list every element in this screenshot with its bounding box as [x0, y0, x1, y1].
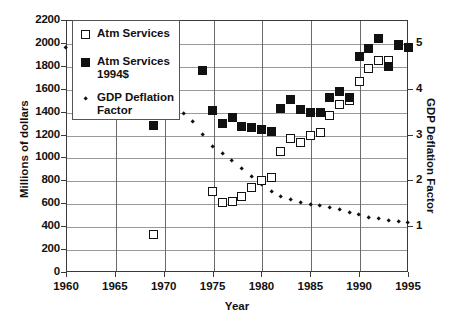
- y-axis-left-tick-mark: [61, 112, 66, 113]
- x-axis-tick-label: 1960: [44, 280, 88, 292]
- y-axis-left-tick-mark: [61, 157, 66, 158]
- y-axis-left-tick-label: 1800: [24, 59, 60, 71]
- gridline-horizontal: [67, 181, 407, 182]
- data-point-series-1: [208, 106, 217, 115]
- legend-swatch-open-square-icon: [79, 27, 93, 41]
- data-point-series-1: [345, 93, 354, 102]
- data-point-series-0: [257, 176, 266, 185]
- data-point-series-0: [228, 197, 237, 206]
- x-axis-tick-mark: [408, 272, 409, 277]
- y-axis-right-tick-mark: [408, 180, 413, 181]
- x-axis-tick-label: 1980: [239, 280, 283, 292]
- x-axis-tick-label: 1995: [386, 280, 430, 292]
- data-point-series-1: [237, 122, 246, 131]
- data-point-series-0: [374, 56, 383, 65]
- x-axis-tick-mark: [115, 272, 116, 277]
- x-axis-tick-label: 1970: [142, 280, 186, 292]
- data-point-series-1: [325, 93, 334, 102]
- y-axis-left-tick-mark: [61, 203, 66, 204]
- y-axis-left-tick-label: 2000: [24, 36, 60, 48]
- gridline-horizontal: [67, 158, 407, 159]
- y-axis-left-tick-mark: [61, 180, 66, 181]
- y-axis-left-tick-mark: [61, 66, 66, 67]
- legend-item-2: GDP Deflation Factor: [79, 91, 179, 116]
- y-axis-left-tick-mark: [61, 89, 66, 90]
- y-axis-right-tick-mark: [408, 226, 413, 227]
- y-axis-left-tick-label: 400: [24, 219, 60, 231]
- x-axis-tick-label: 1985: [288, 280, 332, 292]
- gridline-horizontal: [67, 136, 407, 137]
- data-point-series-1: [404, 43, 413, 52]
- legend-label-2: GDP Deflation Factor: [93, 91, 174, 116]
- y-axis-left-title: Millions of dollars: [18, 100, 30, 198]
- data-point-series-1: [276, 104, 285, 113]
- legend-label-0: Atm Services: [93, 27, 170, 40]
- data-point-series-0: [276, 147, 285, 156]
- y-axis-left-tick-mark: [61, 20, 66, 21]
- gridline-horizontal: [67, 204, 407, 205]
- data-point-series-1: [335, 87, 344, 96]
- x-axis-tick-label: 1990: [337, 280, 381, 292]
- y-axis-left-tick-mark: [61, 226, 66, 227]
- legend-swatch-filled-square-icon: [79, 55, 93, 69]
- legend-item-0: Atm Services: [79, 27, 179, 41]
- y-axis-left-tick-label: 0: [24, 265, 60, 277]
- gridline-vertical: [311, 21, 312, 271]
- data-point-series-1: [267, 127, 276, 136]
- data-point-series-0: [316, 128, 325, 137]
- legend-item-1: Atm Services 1994$: [79, 55, 179, 80]
- data-point-series-0: [335, 100, 344, 109]
- data-point-series-1: [364, 44, 373, 53]
- y-axis-left-tick-label: 2200: [24, 13, 60, 25]
- x-axis-tick-mark: [359, 272, 360, 277]
- x-axis-tick-mark: [164, 272, 165, 277]
- data-point-series-0: [286, 134, 295, 143]
- y-axis-left-tick-label: 200: [24, 242, 60, 254]
- data-point-series-0: [296, 138, 305, 147]
- legend-label-1: Atm Services 1994$: [93, 55, 170, 80]
- chart-figure: 0200400600800100012001400160018002000220…: [0, 0, 451, 321]
- data-point-diamond-dot: [83, 96, 88, 101]
- y-axis-left-tick-mark: [61, 249, 66, 250]
- gridline-vertical: [262, 21, 263, 271]
- data-point-series-0: [247, 183, 256, 192]
- data-point-series-0: [306, 131, 315, 140]
- data-point-series-1: [306, 108, 315, 117]
- data-point-series-1: [316, 108, 325, 117]
- data-point-series-1: [384, 62, 393, 71]
- y-axis-left-tick-label: 600: [24, 196, 60, 208]
- y-axis-right-title: GDP Deflation Factor: [425, 98, 437, 213]
- data-point-series-1: [286, 95, 295, 104]
- y-axis-left-tick-mark: [61, 135, 66, 136]
- x-axis-tick-mark: [213, 272, 214, 277]
- y-axis-right-tick-label: 4: [416, 82, 430, 94]
- chart-legend: Atm ServicesAtm Services 1994$GDP Deflat…: [72, 20, 180, 120]
- data-point-series-1: [394, 41, 403, 50]
- data-point-series-1: [355, 52, 364, 61]
- x-axis-tick-label: 1975: [191, 280, 235, 292]
- y-axis-right-tick-label: 1: [416, 219, 430, 231]
- x-axis-tick-mark: [310, 272, 311, 277]
- data-point-series-1: [218, 119, 227, 128]
- data-point-series-1: [247, 123, 256, 132]
- data-point-series-0: [149, 230, 158, 239]
- y-axis-right-tick-label: 5: [416, 36, 430, 48]
- data-point-series-1: [228, 113, 237, 122]
- data-point-series-1: [374, 34, 383, 43]
- y-axis-left-tick-mark: [61, 43, 66, 44]
- data-point-series-1: [257, 125, 266, 134]
- y-axis-left-tick-label: 1600: [24, 82, 60, 94]
- y-axis-right-tick-mark: [408, 135, 413, 136]
- gridline-horizontal: [67, 250, 407, 251]
- data-point-series-1: [296, 105, 305, 114]
- legend-swatch-diamond-dot-icon: [79, 91, 93, 105]
- data-point-series-1: [149, 121, 158, 130]
- x-axis-title: Year: [66, 300, 408, 312]
- data-point-series-0: [208, 187, 217, 196]
- data-point-series-0: [355, 77, 364, 86]
- x-axis-tick-mark: [66, 272, 67, 277]
- data-point-filled-square: [81, 58, 90, 67]
- x-axis-tick-mark: [261, 272, 262, 277]
- data-point-open-square: [81, 30, 90, 39]
- data-point-series-0: [218, 198, 227, 207]
